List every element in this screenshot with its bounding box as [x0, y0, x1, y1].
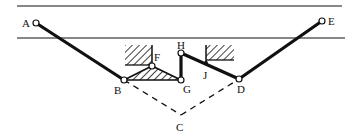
links — [36, 21, 322, 115]
joint-E — [319, 18, 325, 24]
joint-B — [121, 77, 127, 83]
joint-D — [236, 76, 242, 82]
ground-right — [206, 45, 234, 63]
link-AB — [36, 23, 124, 80]
joint-A — [33, 20, 39, 26]
joint-J — [204, 61, 208, 65]
label-E: E — [328, 15, 335, 27]
construction-BC — [124, 80, 181, 115]
label-J: J — [203, 69, 208, 81]
label-G: G — [183, 83, 191, 95]
linkage-diagram: ABCDEFGHJ — [0, 0, 360, 140]
label-C: C — [176, 121, 183, 133]
label-F: F — [154, 51, 160, 63]
link-DE — [239, 21, 322, 79]
ground-left — [125, 45, 152, 66]
label-H: H — [177, 39, 185, 51]
rails — [17, 6, 345, 38]
label-D: D — [237, 83, 245, 95]
label-A: A — [22, 17, 30, 29]
point-labels: ABCDEFGHJ — [22, 15, 335, 133]
label-B: B — [114, 84, 121, 96]
joint-F — [149, 63, 155, 69]
